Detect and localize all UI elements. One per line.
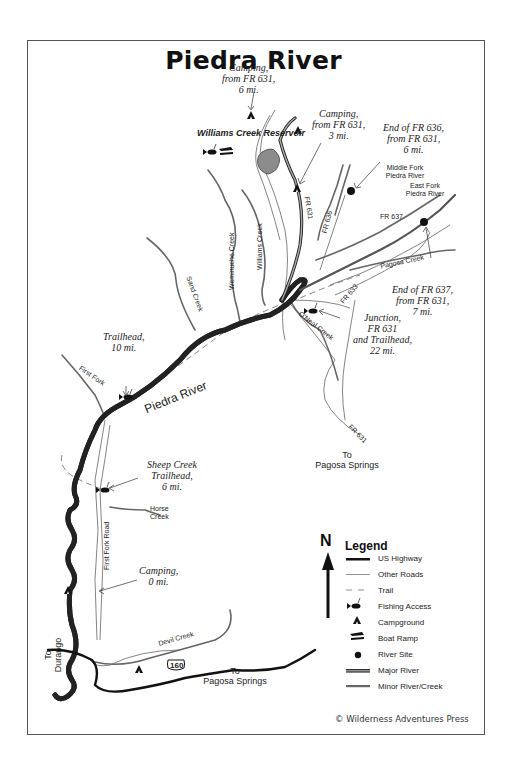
first-fork-road-label: First Fork Road [103, 522, 111, 570]
legend-symbols [346, 558, 370, 687]
annotation-camping-6mi: Camping,from FR 631,6 mi. [222, 62, 275, 95]
middle-fork-label: Middle Fork Piedra River [380, 164, 430, 180]
fr637-label: FR 637 [380, 213, 403, 221]
annotation-junction: Junction,FR 631and Trailhead,22 mi. [353, 312, 412, 356]
legend-title: Legend [345, 539, 388, 553]
legend-item-trail: Trail [378, 586, 393, 595]
annotation-trailhead-10mi: Trailhead,10 mi. [103, 331, 144, 353]
legend-item-minor-river: Minor River/Creek [378, 682, 442, 691]
reservoir [258, 149, 280, 174]
annotation-end-fr636: End of FR 636,from FR 631,6 mi. [383, 122, 444, 155]
reservoir-label: Williams Creek Reservoir [197, 128, 305, 138]
to-pagosa-label-1: ToPagosa Springs [312, 451, 382, 471]
map-canvas [0, 0, 507, 775]
legend-item-us-highway: US Highway [378, 554, 422, 563]
boat-ramp-icon [219, 147, 233, 155]
legend-item-river-site: River Site [378, 650, 413, 659]
highway-shield-label: 160 [170, 661, 183, 670]
legend-item-major-river: Major River [378, 666, 419, 675]
legend-item-fishing-access: Fishing Access [378, 602, 431, 611]
annotation-camping-3mi: Camping,from FR 631,3 mi. [312, 108, 365, 141]
east-fork-label: East Fork Piedra River [400, 182, 450, 198]
major-river [55, 118, 455, 699]
north-label: N [320, 532, 332, 550]
legend-item-campground: Campground [378, 618, 424, 627]
annotation-camping-0mi: Camping,0 mi. [139, 565, 178, 587]
legend-item-boat-ramp: Boat Ramp [378, 634, 418, 643]
us-highway-160 [48, 650, 315, 692]
fishing-access-icons [96, 144, 318, 493]
north-arrow [322, 552, 334, 618]
legend-item-other-roads: Other Roads [378, 570, 423, 579]
annotation-sheep-creek: Sheep CreekTrailhead,6 mi. [147, 459, 197, 492]
copyright: © Wilderness Adventures Press [335, 714, 469, 724]
horse-creek-label: HorseCreek [150, 505, 169, 522]
williams-creek-label: Williams Creek [256, 223, 264, 270]
weminuche-creek-label: Weminuche Creek [228, 233, 236, 290]
to-durango-label: ToDurango [44, 635, 64, 675]
to-pagosa-label-2: ToPagosa Springs [200, 667, 270, 687]
